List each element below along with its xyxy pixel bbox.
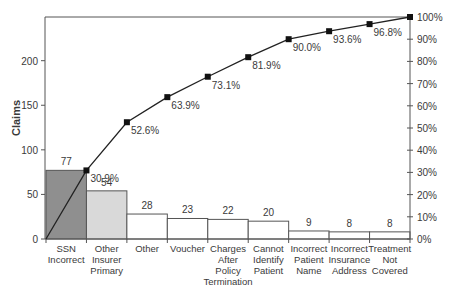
category-label: Insurer	[92, 254, 122, 265]
left-axis: 050100150200	[21, 56, 45, 245]
y2-tick-label: 20%	[417, 190, 437, 201]
category-label: Charges	[210, 243, 246, 254]
bar-value-label: 77	[61, 156, 73, 167]
bar-value-label: 28	[142, 200, 154, 211]
y2-tick-label: 90%	[417, 34, 437, 45]
line-value-label: 63.9%	[171, 100, 199, 111]
category-label: Cannot	[253, 243, 284, 254]
category-label: Other	[135, 243, 159, 254]
category-label: Identify	[253, 254, 284, 265]
category-label: Insurance	[328, 254, 370, 265]
category-label: Primary	[90, 265, 123, 276]
line-marker	[205, 74, 211, 80]
category-label: Incorrect	[290, 243, 327, 254]
category-label: Incorrect	[48, 254, 85, 265]
pareto-chart: 775428232220988 050100150200 0%10%20%30%…	[0, 0, 450, 295]
bar	[289, 231, 329, 239]
y2-tick-label: 10%	[417, 212, 437, 223]
bar	[167, 218, 207, 239]
line-marker	[286, 36, 292, 42]
bar-value-label: 8	[347, 218, 353, 229]
line-marker	[245, 54, 251, 60]
line-value-label: 96.8%	[374, 27, 402, 38]
right-axis: 0%10%20%30%40%50%60%70%80%90%100%	[407, 12, 443, 245]
line-value-label: 93.6%	[333, 34, 361, 45]
category-label: Covered	[372, 265, 408, 276]
bar-value-label: 23	[182, 204, 194, 215]
y-tick-label: 0	[32, 234, 38, 245]
category-label: Voucher	[170, 243, 205, 254]
y2-tick-label: 80%	[417, 56, 437, 67]
category-label: After	[218, 254, 238, 265]
line-marker	[164, 94, 170, 100]
bar	[370, 232, 410, 239]
y2-tick-label: 40%	[417, 145, 437, 156]
bar-value-label: 22	[222, 205, 234, 216]
category-label: Incorrect	[331, 243, 368, 254]
category-label: Not	[382, 254, 397, 265]
y2-tick-label: 30%	[417, 167, 437, 178]
y2-tick-label: 70%	[417, 79, 437, 90]
bar	[208, 219, 248, 239]
bar-value-label: 20	[263, 207, 275, 218]
category-label: Termination	[203, 276, 252, 287]
category-label: Patient	[254, 265, 284, 276]
category-labels: SSNIncorrectOtherInsurerPrimaryOtherVouc…	[48, 243, 412, 287]
y-tick-label: 100	[21, 145, 38, 156]
line-marker	[83, 167, 89, 173]
bar-value-label: 9	[306, 217, 312, 228]
line-value-label: 30.9%	[90, 173, 118, 184]
category-label: SSN	[56, 243, 76, 254]
y-tick-label: 200	[21, 56, 38, 67]
category-label: Patient	[294, 254, 324, 265]
y2-tick-label: 0%	[417, 234, 432, 245]
y-tick-label: 50	[27, 189, 39, 200]
y-tick-label: 150	[21, 100, 38, 111]
line-marker	[326, 28, 332, 34]
y2-tick-label: 50%	[417, 123, 437, 134]
y2-tick-label: 60%	[417, 101, 437, 112]
line-value-label: 81.9%	[252, 60, 280, 71]
category-label: Treatment	[368, 243, 411, 254]
y2-tick-label: 100%	[417, 12, 443, 23]
bar	[248, 221, 288, 239]
bar-value-label: 8	[387, 218, 393, 229]
category-label: Other	[95, 243, 119, 254]
category-label: Address	[332, 265, 367, 276]
bar	[329, 232, 369, 239]
bar	[86, 191, 126, 239]
y-axis-title: Claims	[10, 100, 22, 136]
bar	[127, 214, 167, 239]
category-label: Policy	[215, 265, 241, 276]
line-marker	[124, 119, 130, 125]
line-marker	[367, 21, 373, 27]
category-label: Name	[296, 265, 321, 276]
bar-series: 775428232220988	[46, 156, 410, 243]
line-marker	[407, 14, 413, 20]
line-value-label: 52.6%	[131, 125, 159, 136]
line-value-label: 90.0%	[293, 42, 321, 53]
line-value-label: 73.1%	[212, 80, 240, 91]
